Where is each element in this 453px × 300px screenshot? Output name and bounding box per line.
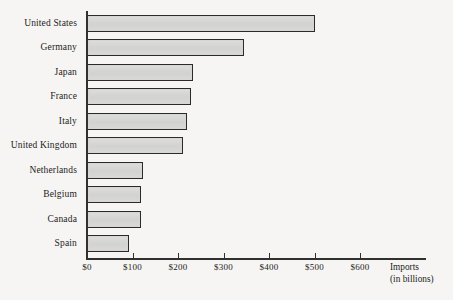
x-axis-tick-label: $200 xyxy=(169,262,188,272)
plot-area: United States Germany Japan France Italy… xyxy=(0,0,453,300)
x-axis-title-line1: Imports xyxy=(390,262,434,274)
bar-netherlands xyxy=(87,162,143,179)
x-axis-tick xyxy=(133,253,134,259)
bar-row xyxy=(87,60,315,85)
y-axis-label-united-kingdom: United Kingdom xyxy=(0,134,81,159)
y-axis-label-italy: Italy xyxy=(0,109,81,134)
bar-germany xyxy=(87,39,244,56)
x-axis-tick xyxy=(269,253,270,259)
bar-row xyxy=(87,232,315,257)
x-axis-title: Imports (in billions) xyxy=(390,262,434,285)
bar-spain xyxy=(87,235,129,252)
bar-chart: United States Germany Japan France Italy… xyxy=(0,0,453,300)
bar-row xyxy=(87,109,315,134)
y-axis-line xyxy=(86,11,88,259)
y-axis-category-labels: United States Germany Japan France Italy… xyxy=(0,11,81,256)
x-axis-tick-label: $400 xyxy=(260,262,279,272)
x-axis-tick xyxy=(224,253,225,259)
y-axis-label-united-states: United States xyxy=(0,11,81,36)
y-axis-label-germany: Germany xyxy=(0,36,81,61)
bar-united-kingdom xyxy=(87,137,183,154)
bars-layer xyxy=(87,11,315,258)
y-axis-label-belgium: Belgium xyxy=(0,183,81,208)
bar-row xyxy=(87,207,315,232)
x-axis-tick-label: $0 xyxy=(82,262,91,272)
bar-belgium xyxy=(87,186,141,203)
x-axis-tick xyxy=(360,253,361,259)
bar-canada xyxy=(87,211,141,228)
bar-japan xyxy=(87,64,193,81)
bar-italy xyxy=(87,113,187,130)
bar-row xyxy=(87,11,315,36)
x-axis-tick xyxy=(315,253,316,259)
x-axis-tick-label: $500 xyxy=(305,262,324,272)
y-axis-label-netherlands: Netherlands xyxy=(0,158,81,183)
bar-united-states xyxy=(87,15,315,32)
x-axis-title-line2: (in billions) xyxy=(390,274,434,286)
x-axis-tick-label: $600 xyxy=(351,262,370,272)
bar-row xyxy=(87,36,315,61)
bar-row xyxy=(87,85,315,110)
y-axis-label-canada: Canada xyxy=(0,207,81,232)
y-axis-label-france: France xyxy=(0,85,81,110)
bar-row xyxy=(87,183,315,208)
y-axis-label-japan: Japan xyxy=(0,60,81,85)
y-axis-label-spain: Spain xyxy=(0,232,81,257)
bar-france xyxy=(87,88,191,105)
x-axis-tick-label: $100 xyxy=(123,262,142,272)
x-axis-tick-label: $300 xyxy=(214,262,233,272)
x-axis-tick xyxy=(178,253,179,259)
x-axis-line xyxy=(86,258,426,260)
bar-row xyxy=(87,134,315,159)
bar-row xyxy=(87,158,315,183)
